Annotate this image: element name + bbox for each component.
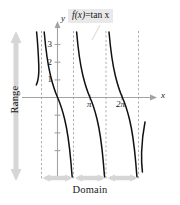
tangent-function-figure: f(x)=tan x 3 2 1 π 2π x y Range Domain bbox=[0, 0, 180, 205]
equation-expression: tan x bbox=[91, 10, 110, 20]
domain-double-arrows bbox=[42, 175, 137, 182]
tan-branch-principal bbox=[44, 32, 72, 177]
ytick-label-1: 1 bbox=[38, 74, 52, 84]
x-axis-label: x bbox=[161, 90, 165, 100]
tan-branch-right-partial bbox=[142, 122, 145, 172]
ytick-label-2: 2 bbox=[38, 57, 52, 67]
domain-annotation-label: Domain bbox=[0, 184, 180, 195]
equation-leader-line bbox=[92, 25, 100, 40]
xtick-label-pi: π bbox=[87, 99, 92, 109]
equation-function: f(x) bbox=[72, 10, 85, 20]
xtick-label-2pi: 2π bbox=[116, 99, 125, 109]
y-axis-label: y bbox=[61, 13, 65, 23]
equation-label: f(x)=tan x bbox=[68, 9, 113, 23]
range-annotation-label: Range bbox=[9, 77, 20, 123]
ytick-label-3: 3 bbox=[38, 39, 52, 49]
